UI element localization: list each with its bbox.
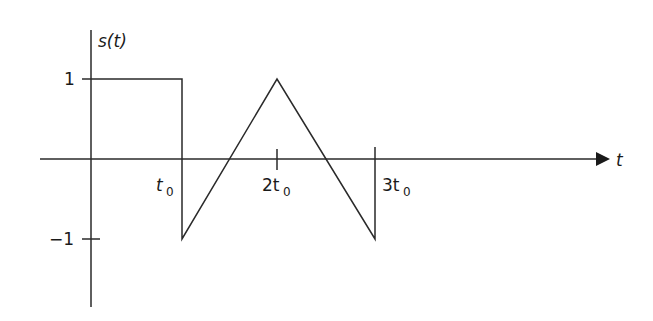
- x-tick-label-t0: t 0: [156, 175, 174, 199]
- x-tick-label-2t0: 2t 0: [262, 175, 291, 199]
- x-tick-label-3t0: 3t 0: [382, 175, 411, 199]
- y-tick-label-1: 1: [64, 69, 75, 89]
- y-tick-label-minus-1: −1: [49, 229, 74, 249]
- x-axis-arrow-icon: [596, 152, 610, 166]
- svg-text:t: t: [156, 175, 164, 195]
- svg-text:2t: 2t: [262, 175, 280, 195]
- svg-text:3t: 3t: [382, 175, 400, 195]
- svg-text:0: 0: [283, 185, 291, 199]
- svg-text:0: 0: [403, 185, 411, 199]
- y-axis-label: s(t): [98, 31, 127, 51]
- svg-text:0: 0: [166, 185, 174, 199]
- signal-diagram: s(t) t 1 −1 t 0 2t 0 3t 0: [0, 0, 653, 321]
- x-axis-label: t: [616, 150, 624, 170]
